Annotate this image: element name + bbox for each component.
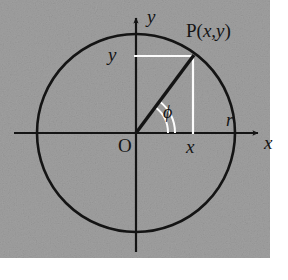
x-coordinate-label: x [186, 137, 194, 156]
radius-label: r [226, 111, 233, 129]
x-axis-label: x [264, 133, 272, 152]
angle-phi-label: ϕ [163, 103, 172, 121]
y-coordinate-label: y [108, 45, 116, 64]
origin-label: O [118, 136, 132, 155]
figure-root: P(x,y) y x y x r O ϕ [0, 0, 288, 280]
geometry-diagram-canvas [0, 0, 288, 280]
point-label-P-prefix: P [186, 20, 197, 41]
point-label-P: P(x,y) [186, 21, 231, 40]
point-label-P-close-paren: ) [225, 20, 231, 41]
point-label-P-y: y [216, 20, 224, 41]
y-axis-label: y [147, 7, 155, 26]
